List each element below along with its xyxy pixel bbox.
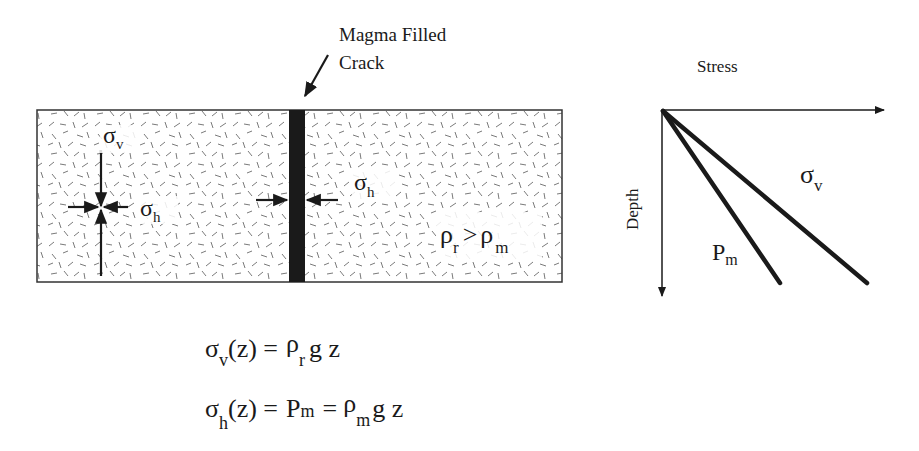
crack-sigma-h-symbol: σ	[354, 169, 367, 195]
equation-sigma-h: σh(z) =Pm=ρmg z	[205, 389, 403, 433]
stress-depth-graph: Stress Depth Pm σv	[623, 57, 884, 296]
equations: σv(z) =ρrg z σh(z) =Pm=ρmg z	[205, 329, 403, 433]
crack-label: Magma Filled Crack	[305, 24, 447, 96]
crack-label-line1: Magma Filled	[339, 24, 447, 45]
magma-crack-diagram: Magma Filled Crack σv σh σh	[0, 0, 919, 451]
sigma-v-symbol: σ	[103, 122, 116, 148]
crack-pointer-arrow-icon	[305, 55, 328, 96]
equation-sigma-v: σv(z) =ρrg z	[205, 329, 340, 370]
pm-line-label: Pm	[712, 239, 738, 268]
y-axis-label: Depth	[623, 188, 642, 230]
sigma-v-line-label: σv	[800, 160, 823, 195]
crack-label-line2: Crack	[339, 52, 385, 73]
magma-crack	[289, 110, 305, 282]
rock-block: σv σh σh ρr>ρm	[37, 110, 562, 282]
x-axis-label: Stress	[697, 57, 738, 76]
sigma-h-symbol: σ	[140, 195, 153, 221]
